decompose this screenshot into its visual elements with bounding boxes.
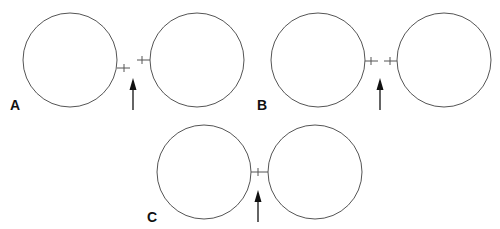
- arrow-icon: [255, 190, 262, 222]
- circle-right: [150, 13, 244, 107]
- panel-label-a: A: [10, 97, 20, 113]
- diagram-canvas: A B C: [0, 0, 500, 229]
- panel-b: B: [257, 13, 491, 113]
- panel-label-b: B: [257, 97, 267, 113]
- circle-right: [268, 125, 362, 219]
- circle-left: [271, 13, 365, 107]
- circle-right: [397, 13, 491, 107]
- panel-a: A: [10, 13, 244, 113]
- circle-left: [23, 13, 117, 107]
- circle-left: [157, 125, 251, 219]
- arrow-icon: [377, 78, 384, 110]
- arrow-icon: [130, 78, 137, 110]
- panel-c: C: [147, 125, 362, 225]
- panel-label-c: C: [147, 209, 157, 225]
